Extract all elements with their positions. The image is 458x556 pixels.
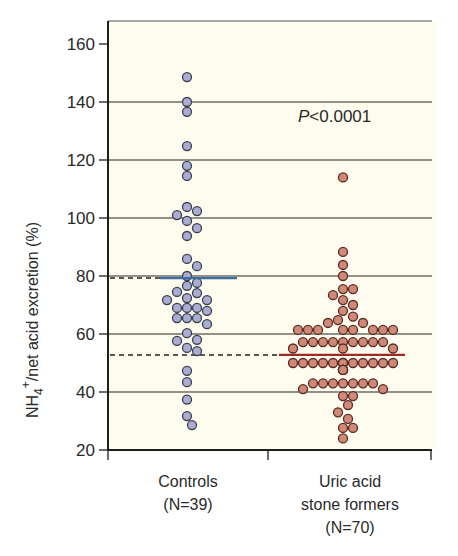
stone-former-data-point [324,318,333,327]
stone-former-data-point [344,414,353,423]
y-tick-label-100: 100 [67,209,95,228]
stone-former-data-point [299,338,308,347]
control-data-point [193,335,202,344]
p-value-symbol: P [298,107,310,126]
stone-former-data-point [369,325,378,334]
y-tick-label-80: 80 [76,267,95,286]
control-data-point [173,287,182,296]
stone-former-data-point [349,301,358,310]
control-data-point [183,73,192,82]
stone-former-data-point [339,247,348,256]
stone-former-data-point [349,379,358,388]
control-data-point [193,262,202,271]
control-data-point [183,281,192,290]
control-data-point [193,224,202,233]
stone-former-data-point [389,359,398,368]
stone-former-data-point [379,385,388,394]
stone-former-data-point [389,325,398,334]
dot-plot-chart: 20406080100120140160 NH4+/net acid excre… [0,0,458,556]
y-tick-label-120: 120 [67,151,95,170]
stone-former-data-point [369,359,378,368]
control-data-point [183,254,192,263]
stone-former-data-point [339,365,348,374]
stone-former-data-point [319,338,328,347]
control-data-point [183,294,192,303]
control-data-point [183,231,192,240]
stone-former-data-point [309,379,318,388]
stone-former-data-point [349,325,358,334]
stone-former-data-point [349,392,358,401]
control-data-point [173,336,182,345]
control-data-point [183,343,192,352]
control-data-point [193,314,202,323]
stone-former-data-point [334,316,343,325]
control-data-point [203,320,212,329]
stone-former-data-point [349,312,358,321]
stone-former-data-point [319,359,328,368]
control-data-point [183,107,192,116]
y-tick-label-140: 140 [67,93,95,112]
p-value-annotation: P<0.0001 [298,107,371,126]
y-tick-label-60: 60 [76,325,95,344]
stone-former-data-point [309,359,318,368]
category-label-controls-n: (N=39) [163,496,212,513]
control-data-point [188,421,197,430]
control-data-point [173,314,182,323]
stone-former-data-point [329,291,338,300]
control-data-point [183,272,192,281]
stone-former-data-point [379,338,388,347]
stone-former-data-point [334,408,343,417]
stone-former-data-point [339,344,348,353]
stone-former-data-point [339,379,348,388]
category-label-stone-formers: Uric acid [319,473,381,490]
stone-former-data-point [314,325,323,334]
stone-former-data-point [359,338,368,347]
control-data-point [183,142,192,151]
control-data-point [193,207,202,216]
y-tick-label-40: 40 [76,383,95,402]
stone-former-data-point [299,359,308,368]
category-label-stone-formers-n: (N=70) [325,519,374,536]
y-tick-label-20: 20 [76,441,95,460]
y-axis-ticks: 20406080100120140160 [67,35,108,460]
category-label-controls: Controls [158,473,218,490]
control-data-point [183,412,192,421]
stone-former-data-point [349,338,358,347]
stone-former-data-point [309,338,318,347]
stone-former-data-point [349,285,358,294]
stone-former-data-point [339,392,348,401]
stone-former-data-point [289,359,298,368]
stone-former-data-point [339,434,348,443]
stone-former-data-point [349,423,358,432]
y-tick-label-160: 160 [67,35,95,54]
stone-former-data-point [319,379,328,388]
y-axis-title-sub: 4 [32,388,46,395]
control-data-point [183,171,192,180]
stone-former-data-point [289,344,298,353]
stone-former-data-point [339,423,348,432]
plot-panel [108,21,437,450]
control-data-point [183,395,192,404]
y-axis-title: NH4+/net acid excretion (%) [19,222,46,418]
stone-former-data-point [359,318,368,327]
stone-former-data-point [329,359,338,368]
stone-former-data-point [379,359,388,368]
control-data-point [183,303,192,312]
control-data-point [193,303,202,312]
stone-former-data-point [339,306,348,315]
control-data-point [183,161,192,170]
stone-former-data-point [359,379,368,388]
y-axis-title-nh: NH [24,395,41,418]
stone-former-data-point [339,325,348,334]
control-data-point [203,306,212,315]
control-data-point [193,278,202,287]
control-data-point [193,289,202,298]
control-data-point [203,296,212,305]
control-data-point [173,303,182,312]
stone-former-data-point [299,385,308,394]
stone-former-data-point [344,401,353,410]
control-data-point [193,347,202,356]
stone-former-data-point [369,338,378,347]
control-data-point [183,216,192,225]
stone-former-data-point [339,272,348,281]
